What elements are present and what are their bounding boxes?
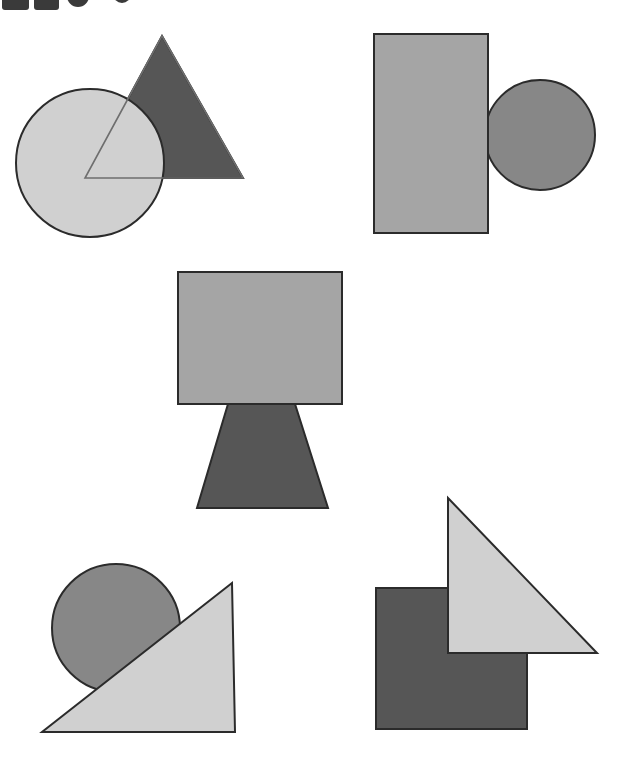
circle-shape[interactable]	[485, 80, 595, 190]
circle-1-icon[interactable]	[67, 0, 89, 7]
rectangle-shape[interactable]	[178, 272, 342, 404]
rounded-rect-1-icon[interactable]	[2, 0, 29, 10]
circle-shape[interactable]	[16, 89, 164, 237]
rectangle-shape[interactable]	[374, 34, 488, 233]
shapes-figure	[0, 0, 631, 776]
top-icon-strip	[0, 0, 631, 12]
rounded-rect-2-icon[interactable]	[34, 0, 59, 10]
shapes-canvas	[0, 0, 631, 776]
circle-2-icon[interactable]	[113, 0, 131, 3]
top-icon-strip-figure	[0, 0, 631, 12]
